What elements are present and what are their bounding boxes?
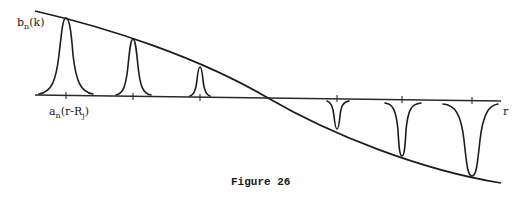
dip-3: [443, 104, 498, 176]
figure-caption: Figure 26: [231, 176, 290, 188]
envelope-curve: [35, 11, 501, 183]
peak-2: [116, 39, 151, 95]
peak-3: [190, 67, 210, 96]
dip-1: [327, 101, 349, 129]
site-function-label: an(r-Rj): [49, 105, 89, 120]
peak-1: [39, 18, 93, 94]
figure-26-diagram: bn(k) an(r-Rj) r Figure 26: [0, 0, 521, 200]
y-axis-label: bn(k): [17, 16, 44, 31]
dip-2: [385, 103, 421, 156]
r-axis-label: r: [503, 105, 509, 118]
